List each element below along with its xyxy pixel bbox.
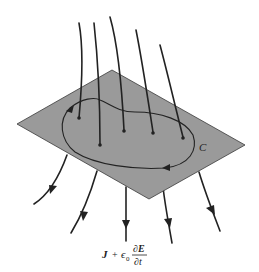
formula-denominator: ∂t (134, 256, 142, 267)
formula-label: J + ϵ 0 ∂E ∂t (101, 243, 147, 267)
piercing-dot (151, 131, 155, 135)
curve-label: C (199, 141, 207, 153)
piercing-dot (181, 136, 185, 140)
ampere-maxwell-diagram: C J + ϵ 0 ∂E ∂t (0, 0, 259, 272)
piercing-dot (98, 143, 102, 147)
formula-j: J (101, 248, 108, 260)
field-line-below-1 (34, 155, 67, 204)
piercing-dot (122, 129, 126, 133)
arrow-head-icon (49, 185, 57, 194)
field-line-below-5 (199, 172, 220, 231)
field-line-below-2 (71, 171, 97, 233)
arrow-head-icon (80, 211, 88, 221)
arrow-head-icon (122, 220, 130, 229)
formula-subscript: 0 (126, 255, 130, 263)
piercing-dot (77, 116, 81, 120)
formula-numerator: ∂E (133, 243, 145, 254)
arrow-head-icon (206, 205, 215, 215)
field-line-below-4 (163, 187, 172, 243)
formula-plus: + (112, 249, 118, 260)
surface-plane (17, 70, 245, 199)
arrow-head-icon (164, 218, 172, 228)
